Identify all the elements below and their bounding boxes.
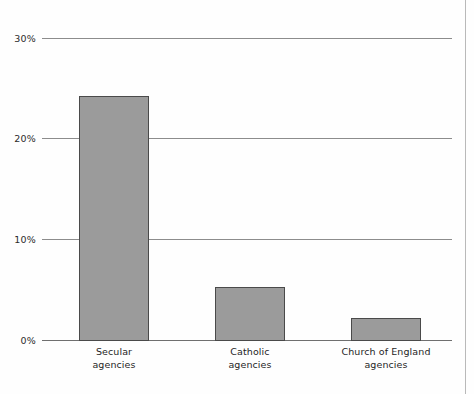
y-tick-label-20: 20% <box>0 133 36 144</box>
y-tick-label-30: 30% <box>0 33 36 44</box>
y-tick-label-0: 0% <box>0 335 36 346</box>
y-tick-label-10: 10% <box>0 234 36 245</box>
bar-chart-plot-area: 30% 20% 10% 0% Secular agencies Catholic… <box>0 0 474 394</box>
bar-church-of-england-agencies <box>351 318 421 341</box>
bar-catholic-agencies <box>215 287 285 341</box>
bar-secular-agencies <box>79 96 149 341</box>
category-label-secular-agencies: Secular agencies <box>64 345 164 371</box>
category-label-church-of-england-agencies: Church of England agencies <box>321 345 451 371</box>
gridline-30 <box>42 38 452 39</box>
chart-page: 30% 20% 10% 0% Secular agencies Catholic… <box>0 0 474 394</box>
category-label-catholic-agencies: Catholic agencies <box>200 345 300 371</box>
